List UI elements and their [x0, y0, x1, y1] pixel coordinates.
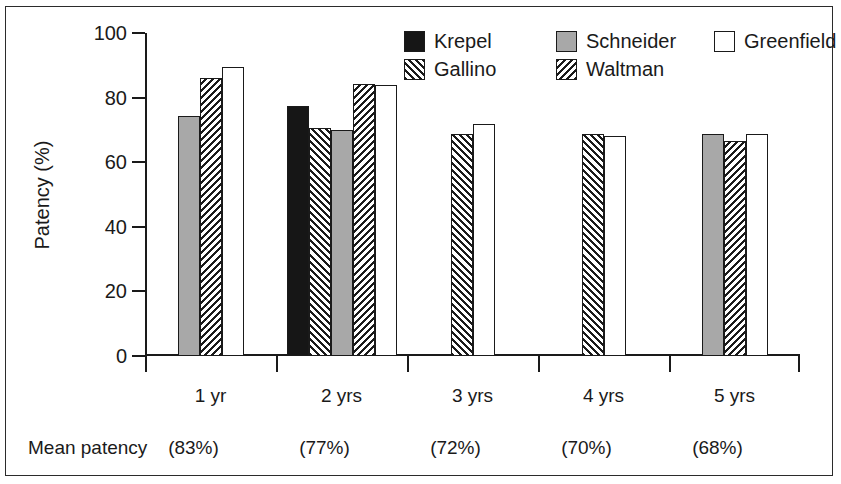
bar-gallino-2-yrs — [309, 128, 331, 356]
y-tick-label: 100 — [94, 23, 127, 43]
x-category-label: 1 yr — [195, 385, 227, 407]
legend-swatch-icon — [404, 31, 425, 52]
legend-label: Krepel — [434, 31, 492, 52]
x-tick — [669, 356, 671, 372]
bar-waltman-5-yrs — [724, 141, 746, 356]
bar-krepel-2-yrs — [287, 106, 309, 356]
legend-label: Schneider — [586, 31, 676, 52]
legend-item-greenfield[interactable]: Greenfield — [714, 31, 836, 52]
x-tick — [407, 356, 409, 372]
legend-item-krepel[interactable]: Krepel — [404, 31, 492, 52]
x-tick — [145, 356, 147, 372]
chart-figure: Patency (%) 020406080100 KrepelSchneider… — [0, 0, 841, 484]
x-category-label: 4 yrs — [583, 385, 624, 407]
mean-patency-value: (68%) — [692, 437, 743, 459]
bar-greenfield-4-yrs — [604, 136, 626, 356]
mean-patency-label: Mean patency — [28, 437, 147, 459]
bar-greenfield-2-yrs — [375, 85, 397, 356]
bar-schneider-1-yr — [178, 116, 200, 356]
y-tick-label: 80 — [105, 88, 127, 108]
y-tick — [132, 226, 145, 228]
x-tick — [538, 356, 540, 372]
bar-greenfield-3-yrs — [473, 124, 495, 356]
legend-label: Gallino — [434, 59, 496, 80]
y-tick — [132, 355, 145, 357]
legend-item-schneider[interactable]: Schneider — [556, 31, 676, 52]
y-axis-line — [145, 33, 147, 356]
mean-patency-value: (77%) — [299, 437, 350, 459]
legend-swatch-icon — [556, 59, 577, 80]
legend-label: Waltman — [586, 59, 664, 80]
bar-schneider-2-yrs — [331, 130, 353, 356]
bar-greenfield-1-yr — [222, 67, 244, 356]
x-category-label: 3 yrs — [452, 385, 493, 407]
bar-waltman-2-yrs — [353, 84, 375, 356]
x-category-label: 2 yrs — [321, 385, 362, 407]
mean-patency-value: (83%) — [168, 437, 219, 459]
legend-swatch-icon — [714, 31, 735, 52]
bar-waltman-1-yr — [200, 78, 222, 356]
y-tick — [132, 97, 145, 99]
mean-patency-value: (72%) — [430, 437, 481, 459]
legend-item-gallino[interactable]: Gallino — [404, 59, 496, 80]
y-axis-title-text: Patency (%) — [31, 140, 54, 249]
x-tick — [276, 356, 278, 372]
mean-patency-value: (70%) — [561, 437, 612, 459]
bar-gallino-3-yrs — [451, 134, 473, 356]
x-category-label: 5 yrs — [714, 385, 755, 407]
legend-swatch-icon — [556, 31, 577, 52]
y-tick-label: 60 — [105, 152, 127, 172]
legend-label: Greenfield — [744, 31, 836, 52]
bar-schneider-5-yrs — [702, 134, 724, 356]
y-tick — [132, 290, 145, 292]
y-tick — [132, 32, 145, 34]
y-tick-label: 40 — [105, 217, 127, 237]
legend-item-waltman[interactable]: Waltman — [556, 59, 664, 80]
x-tick — [798, 356, 800, 372]
y-tick — [132, 161, 145, 163]
chart-legend: KrepelSchneiderGreenfieldGallinoWaltman — [404, 31, 824, 89]
y-tick-label: 20 — [105, 281, 127, 301]
y-tick-label: 0 — [116, 346, 127, 366]
bar-gallino-4-yrs — [582, 134, 604, 356]
y-axis-title: Patency (%) — [30, 33, 54, 356]
bar-greenfield-5-yrs — [746, 134, 768, 356]
legend-swatch-icon — [404, 59, 425, 80]
